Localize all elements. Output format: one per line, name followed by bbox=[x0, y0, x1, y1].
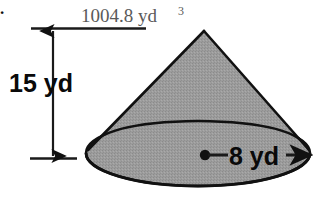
cone-volume-figure: 15 yd 8 yd 1004.8 yd 3 . bbox=[0, 0, 315, 203]
height-label: 15 yd bbox=[9, 69, 73, 97]
answer-text: 1004.8 yd bbox=[81, 5, 158, 26]
radius-label: 8 yd bbox=[229, 142, 279, 170]
figure-canvas: 15 yd 8 yd 1004.8 yd 3 . bbox=[0, 0, 315, 203]
answer-exponent: 3 bbox=[178, 4, 184, 18]
answer-annotation: 1004.8 yd 3 bbox=[81, 4, 184, 26]
problem-number-marker: . bbox=[0, 0, 4, 18]
